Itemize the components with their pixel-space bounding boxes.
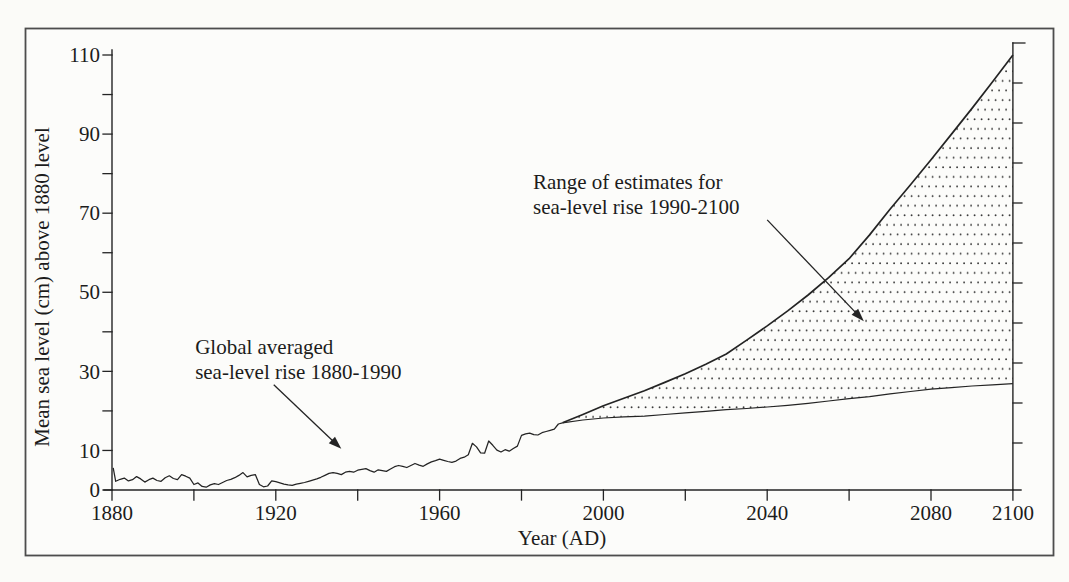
y-tick-label: 90 xyxy=(79,122,100,146)
x-tick-label: 2080 xyxy=(910,501,952,525)
x-tick-label: 1920 xyxy=(255,501,297,525)
y-axis-title: Mean sea level (cm) above 1880 level xyxy=(30,127,54,447)
x-tick-label: 2100 xyxy=(992,501,1034,525)
sea-level-rise-figure: 0103050709011018801920196020002040208021… xyxy=(0,0,1069,582)
annotation-historical-text: sea-level rise 1880-1990 xyxy=(195,360,401,384)
x-axis-title: Year (AD) xyxy=(518,526,606,550)
annotation-range-text: sea-level rise 1990-2100 xyxy=(533,195,739,219)
x-tick-label: 1880 xyxy=(91,501,133,525)
x-tick-label: 2000 xyxy=(582,501,624,525)
annotation-historical-text: Global averaged xyxy=(195,335,334,359)
y-tick-label: 50 xyxy=(79,280,100,304)
y-tick-label: 70 xyxy=(79,201,100,225)
annotation-range-text: Range of estimates for xyxy=(533,170,723,194)
sea-level-chart: 0103050709011018801920196020002040208021… xyxy=(0,0,1069,582)
x-tick-label: 1960 xyxy=(419,501,461,525)
y-tick-label: 30 xyxy=(79,360,100,384)
y-tick-label: 110 xyxy=(69,43,100,67)
y-tick-label: 10 xyxy=(79,439,100,463)
y-tick-label: 0 xyxy=(90,478,101,502)
x-tick-label: 2040 xyxy=(746,501,788,525)
